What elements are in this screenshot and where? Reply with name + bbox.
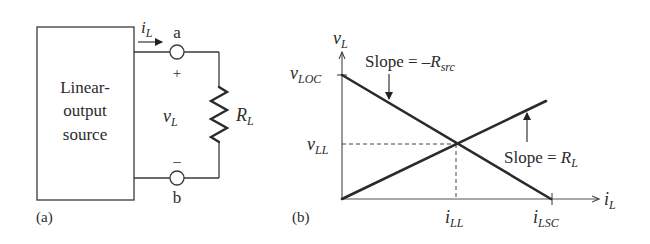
minus-sign: – bbox=[172, 153, 181, 169]
y-axis-label: vL bbox=[333, 28, 348, 51]
x-axis-label: iL bbox=[604, 189, 616, 212]
plus-sign: + bbox=[173, 65, 181, 81]
i-lsc-label: iLSC bbox=[533, 207, 560, 230]
source-line bbox=[342, 75, 551, 199]
i-ll-label: iLL bbox=[445, 207, 464, 230]
source-label-line1: Linear- bbox=[60, 78, 110, 97]
current-label: iL bbox=[141, 18, 153, 40]
load-slope-label: Slope = RL bbox=[504, 148, 578, 170]
resistor-label: RL bbox=[235, 105, 254, 128]
v-ll-label: vLL bbox=[307, 134, 329, 157]
terminal-b-label: b bbox=[173, 188, 182, 207]
load-line-graph: vL iL vLOC vLL iLL iLSC Slope = –Rsrc Sl… bbox=[290, 28, 616, 230]
circuit-diagram: Linear- output source iL a b + – vL RL (… bbox=[36, 18, 254, 226]
terminal-a-label: a bbox=[173, 23, 181, 42]
caption-a: (a) bbox=[36, 209, 53, 226]
source-label-line3: source bbox=[63, 125, 107, 144]
caption-b: (b) bbox=[292, 209, 310, 226]
v-loc-label: vLOC bbox=[290, 63, 322, 86]
figure-canvas: Linear- output source iL a b + – vL RL (… bbox=[0, 0, 650, 244]
voltage-label: vL bbox=[163, 106, 178, 129]
terminal-a-circle bbox=[170, 45, 184, 59]
terminal-b-circle bbox=[170, 171, 184, 185]
resistor-icon bbox=[211, 87, 227, 142]
source-slope-label: Slope = –Rsrc bbox=[365, 52, 456, 74]
source-label-line2: output bbox=[63, 101, 107, 120]
